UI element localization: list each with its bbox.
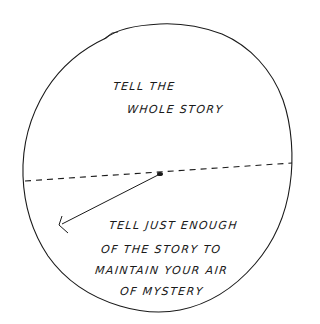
- arrow-head-icon: [59, 216, 68, 233]
- upper-label-line-1: TELL THE: [112, 80, 176, 93]
- dashed-divider-line: [25, 163, 292, 181]
- lower-label-line-4: OF MYSTERY: [119, 285, 204, 298]
- upper-label-line-2: WHOLE STORY: [126, 103, 224, 116]
- lower-label-line-1: TELL JUST ENOUGH: [108, 219, 238, 232]
- lower-label-line-3: MAINTAIN YOUR AIR: [94, 264, 229, 277]
- arrow-shaft: [62, 174, 160, 224]
- lower-label-line-2: OF THE STORY TO: [100, 243, 222, 256]
